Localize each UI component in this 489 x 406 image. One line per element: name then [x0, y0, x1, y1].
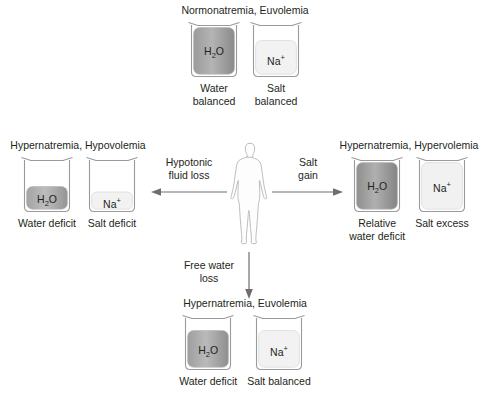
- quadrant-left: Hypernatremia, Hypovolemia: [4, 139, 152, 230]
- arrow-label-line-2: fluid loss: [150, 169, 228, 182]
- arrow-label-line-1: Salt: [272, 156, 344, 169]
- arrow-free-water-loss: [243, 252, 255, 304]
- beaker-icon-water: H2O: [351, 156, 403, 214]
- arrow-label-free-water-loss: Free water loss: [176, 259, 242, 284]
- beaker-cell-bottom-salt: Na+ Salt balanced: [247, 314, 311, 388]
- quadrant-right-title: Hypernatremia, Hypervolemia: [333, 139, 485, 152]
- human-body-icon: [227, 142, 273, 264]
- beaker-icon-water: H2O: [188, 21, 240, 79]
- beaker-icon-salt: Na+: [253, 314, 305, 372]
- caption-line-1: Water deficit: [18, 217, 76, 230]
- caption-line-1: Salt excess: [415, 217, 469, 230]
- caption-line-1: Water deficit: [179, 375, 237, 388]
- beaker-icon-water: H2O: [21, 156, 73, 214]
- caption-line-1: Relative: [349, 217, 405, 230]
- beaker-pair-left: H2O Water deficit Na+ Salt deficit: [4, 156, 152, 230]
- caption-line-2: balanced: [255, 95, 298, 108]
- caption-line-2: balanced: [193, 95, 236, 108]
- quadrant-right: Hypernatremia, Hypervolemia: [333, 139, 485, 242]
- beaker-caption-top-water: Water balanced: [193, 82, 236, 107]
- beaker-pair-top: H2O Water balanced Na+ Salt: [165, 21, 325, 107]
- quadrant-left-title: Hypernatremia, Hypovolemia: [4, 139, 152, 152]
- beaker-cell-top-salt: Na+ Salt balanced: [250, 21, 302, 107]
- quadrant-bottom: Hypernatremia, Euvolemia: [166, 297, 324, 388]
- beaker-cell-right-salt: Na+ Salt excess: [415, 156, 469, 242]
- beaker-caption-bottom-salt: Salt balanced: [247, 375, 311, 388]
- beaker-cell-bottom-water: H2O Water deficit: [179, 314, 237, 388]
- caption-line-1: Salt balanced: [247, 375, 311, 388]
- diagram-canvas: Normonatremia, Euvolemia: [0, 0, 489, 406]
- caption-line-1: Salt deficit: [88, 217, 136, 230]
- quadrant-top-title: Normonatremia, Euvolemia: [165, 4, 325, 17]
- caption-line-1: Salt: [255, 82, 298, 95]
- arrow-salt-gain: [272, 184, 344, 202]
- caption-line-1: Water: [193, 82, 236, 95]
- arrow-label-line-1: Free water: [176, 259, 242, 272]
- arrow-label-line-2: loss: [176, 272, 242, 285]
- beaker-pair-bottom: H2O Water deficit Na+ Salt balanced: [166, 314, 324, 388]
- beaker-icon-salt: Na+: [416, 156, 468, 214]
- beaker-icon-salt: Na+: [86, 156, 138, 214]
- beaker-icon-salt: Na+: [250, 21, 302, 79]
- arrow-label-hypotonic-fluid-loss: Hypotonic fluid loss: [150, 156, 228, 181]
- arrow-hypotonic-fluid-loss: [150, 184, 228, 202]
- beaker-caption-left-salt: Salt deficit: [88, 217, 136, 230]
- beaker-cell-left-water: H2O Water deficit: [18, 156, 76, 230]
- quadrant-top: Normonatremia, Euvolemia: [165, 4, 325, 107]
- beaker-caption-right-water: Relative water deficit: [349, 217, 405, 242]
- beaker-caption-right-salt: Salt excess: [415, 217, 469, 230]
- arrow-label-line-2: gain: [272, 169, 344, 182]
- beaker-cell-top-water: H2O Water balanced: [188, 21, 240, 107]
- beaker-icon-water: H2O: [182, 314, 234, 372]
- caption-line-2: water deficit: [349, 230, 405, 243]
- beaker-cell-left-salt: Na+ Salt deficit: [86, 156, 138, 230]
- beaker-caption-bottom-water: Water deficit: [179, 375, 237, 388]
- beaker-caption-left-water: Water deficit: [18, 217, 76, 230]
- beaker-caption-top-salt: Salt balanced: [255, 82, 298, 107]
- arrow-label-line-1: Hypotonic: [150, 156, 228, 169]
- beaker-cell-right-water: H2O Relative water deficit: [349, 156, 405, 242]
- beaker-pair-right: H2O Relative water deficit Na+: [333, 156, 485, 242]
- arrow-label-salt-gain: Salt gain: [272, 156, 344, 181]
